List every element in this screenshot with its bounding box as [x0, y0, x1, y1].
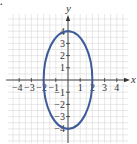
x-axis-arrow-icon: [124, 78, 130, 82]
y-tick-label: 1: [60, 62, 65, 73]
x-axis-label: x: [130, 73, 136, 85]
x-tick-label: 3: [102, 82, 107, 93]
x-tick-label: −3: [24, 82, 35, 93]
x-tick-label: −2: [36, 82, 47, 93]
y-tick-label: −3: [54, 111, 65, 122]
y-axis-label: y: [65, 2, 71, 14]
x-tick-label: −4: [12, 82, 23, 93]
y-tick-label: 3: [60, 38, 65, 49]
y-tick-label: 2: [60, 50, 65, 61]
y-axis-arrow-icon: [66, 15, 70, 21]
ellipse-plot: −4−3−2−11234−4−3−2−11234 x y: [0, 0, 137, 144]
x-tick-label: 1: [78, 82, 83, 93]
y-tick-label: −2: [54, 99, 65, 110]
x-tick-label: 4: [114, 82, 119, 93]
axes: [6, 15, 130, 143]
y-tick-label: −1: [54, 87, 65, 98]
